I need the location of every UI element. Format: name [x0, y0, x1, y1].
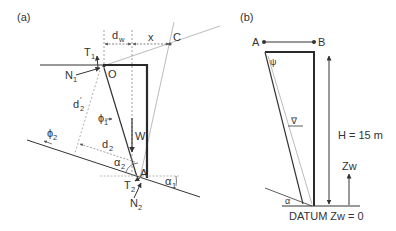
svg-text:d: d: [102, 138, 108, 150]
svg-text:1: 1: [104, 118, 108, 127]
point-b-marker: [312, 40, 316, 44]
svg-text:2: 2: [121, 162, 125, 171]
line-c-to-a: [140, 22, 174, 178]
label-dw: d w: [112, 29, 125, 44]
label-o: O: [108, 68, 117, 80]
svg-text:d: d: [73, 98, 79, 110]
n1-arrow: [76, 68, 100, 75]
label-phi2: ϕ 2: [47, 127, 57, 142]
label-zw: Zw: [342, 160, 357, 172]
label-point-b: B: [318, 36, 325, 48]
label-datum: DATUM Zw = 0: [289, 210, 364, 222]
svg-text:1: 1: [172, 181, 176, 190]
panel-a-label: (a): [17, 11, 30, 23]
svg-text:′: ′: [80, 95, 82, 104]
svg-text:2: 2: [131, 185, 135, 194]
tension-line-oc: [103, 26, 220, 66]
label-psi: ψ: [270, 57, 276, 67]
label-n2: N 2: [130, 197, 142, 212]
diagram-canvas: (a): [0, 0, 396, 231]
label-x: x: [148, 31, 154, 43]
label-w: W: [135, 130, 146, 142]
water-level-symbol: ∇: [290, 116, 298, 126]
label-alpha: α: [285, 196, 290, 206]
panel-a: (a): [17, 11, 220, 212]
svg-text:2: 2: [80, 104, 84, 113]
water-table-line: [268, 56, 312, 204]
svg-text:w: w: [118, 35, 125, 44]
svg-text:α: α: [114, 156, 121, 168]
svg-text:N: N: [130, 197, 138, 209]
panel-b-label: (b): [240, 11, 253, 23]
phi2-pointer: [44, 141, 52, 144]
label-n1: N 1: [65, 69, 77, 84]
label-t2: T 2: [124, 179, 135, 194]
svg-text:T: T: [84, 46, 91, 58]
label-a: A: [140, 167, 148, 179]
point-o-marker: [102, 64, 105, 67]
label-point-a: A: [252, 36, 260, 48]
svg-text:2: 2: [138, 203, 142, 212]
label-t1: T 1: [84, 46, 95, 61]
label-c: C: [173, 31, 181, 43]
t1-arrow: [97, 56, 98, 68]
label-phi1: ϕ 1: [98, 112, 108, 127]
svg-text:d: d: [112, 29, 118, 41]
point-c-marker: [168, 42, 171, 45]
svg-text:2: 2: [53, 133, 57, 142]
svg-text:N: N: [65, 69, 73, 81]
label-height: H = 15 m: [338, 129, 383, 141]
point-a-marker: [262, 40, 266, 44]
panel-b: (b) A B ψ ∇ α H = 15 m Zw DATUM Zw = 0: [240, 11, 383, 222]
d2prime-line: [75, 70, 100, 153]
slope-face: [265, 52, 303, 204]
svg-text:2: 2: [109, 144, 113, 153]
label-d2: d 2: [102, 138, 113, 153]
svg-text:α: α: [165, 175, 172, 187]
label-d2prime: d 2 ′: [73, 95, 84, 113]
svg-text:1: 1: [91, 52, 95, 61]
svg-text:T: T: [124, 179, 131, 191]
svg-text:1: 1: [73, 75, 77, 84]
